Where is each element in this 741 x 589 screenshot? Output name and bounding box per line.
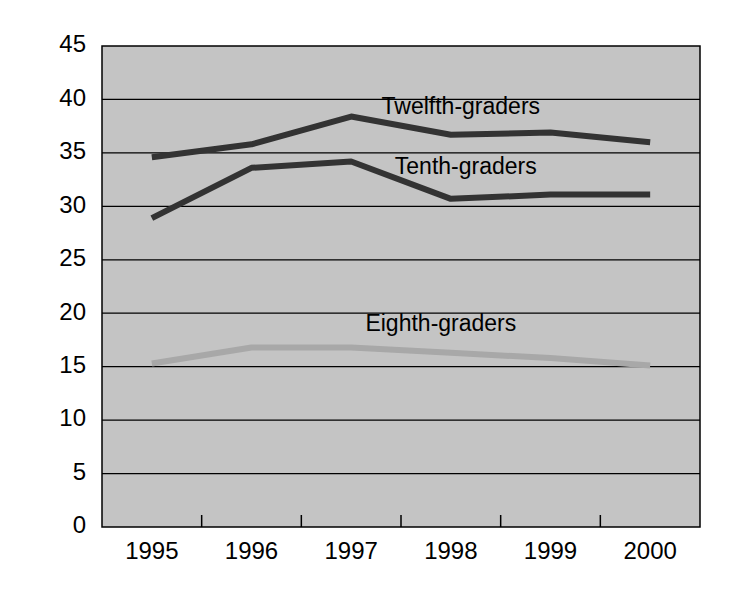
y-axis-tick-label: 20 <box>59 298 86 325</box>
y-axis-tick-label: 40 <box>59 84 86 111</box>
y-axis-tick-label: 35 <box>59 137 86 164</box>
x-axis-tick-label: 2000 <box>623 537 676 564</box>
y-axis-tick-label: 10 <box>59 404 86 431</box>
y-axis-tick-label: 15 <box>59 351 86 378</box>
y-axis-tick-label: 5 <box>73 458 86 485</box>
y-axis-tick-label: 30 <box>59 191 86 218</box>
x-axis-tick-label: 1995 <box>125 537 178 564</box>
series-label: Twelfth-graders <box>382 93 541 119</box>
chart-canvas: 051015202530354045 199519961997199819992… <box>0 0 741 589</box>
x-axis-tick-label: 1997 <box>324 537 377 564</box>
x-axis-tick-label: 1999 <box>524 537 577 564</box>
x-axis-tick-label: 1998 <box>424 537 477 564</box>
y-axis-tick-label: 25 <box>59 244 86 271</box>
series-label: Tenth-graders <box>395 153 537 179</box>
y-axis-tick-label: 0 <box>73 511 86 538</box>
x-axis-tick-label: 1996 <box>225 537 278 564</box>
y-axis-tick-label: 45 <box>59 30 86 57</box>
line-chart-figure: 051015202530354045 199519961997199819992… <box>0 0 741 589</box>
series-label: Eighth-graders <box>365 310 516 336</box>
